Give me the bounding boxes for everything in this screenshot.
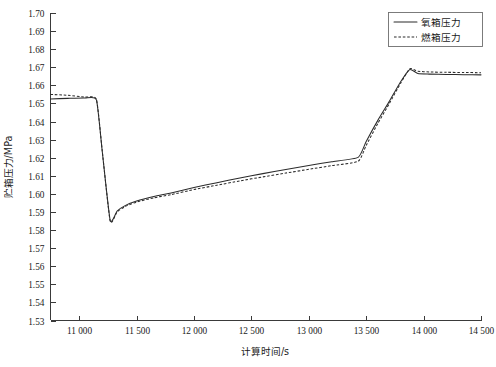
y-tick-label: 1.60 [28,190,45,200]
y-axis-title: 贮箱压力/MPa [3,136,14,199]
chart-legend: 氧箱压力 燃箱压力 [389,13,483,47]
y-tick-label: 1.62 [28,154,45,164]
y-tick-label: 1.67 [28,63,45,73]
y-tick-label: 1.54 [28,298,45,308]
x-tick-label: 13 000 [297,326,323,336]
y-tick-label: 1.55 [28,280,45,290]
y-tick-label: 1.56 [28,262,45,272]
y-tick-label: 1.61 [28,172,45,182]
y-tick-label: 1.53 [28,317,45,327]
x-tick-label: 11 000 [67,326,93,336]
y-tick-label: 1.63 [28,136,45,146]
y-tick-label: 1.64 [28,118,45,128]
chart-background [0,0,496,367]
x-tick-label: 14 000 [412,326,438,336]
y-tick-label: 1.69 [28,27,45,37]
y-tick-label: 1.68 [28,45,45,55]
x-tick-label: 13 500 [354,326,380,336]
x-tick-label: 12 500 [239,326,265,336]
x-tick-label: 14 500 [469,326,495,336]
y-tick-label: 1.59 [28,208,45,218]
legend-label-0: 氧箱压力 [421,17,461,28]
y-tick-label: 1.70 [28,9,45,19]
pressure-time-chart: 1.531.541.551.561.571.581.591.601.611.62… [0,0,496,367]
x-axis-title: 计算时间/s [241,346,289,357]
y-tick-label: 1.66 [28,81,45,91]
y-tick-label: 1.58 [28,226,45,236]
y-tick-label: 1.65 [28,99,45,109]
legend-label-1: 燃箱压力 [421,32,461,43]
x-tick-label: 12 000 [182,326,208,336]
y-tick-label: 1.57 [28,244,45,254]
x-tick-label: 11 500 [125,326,151,336]
